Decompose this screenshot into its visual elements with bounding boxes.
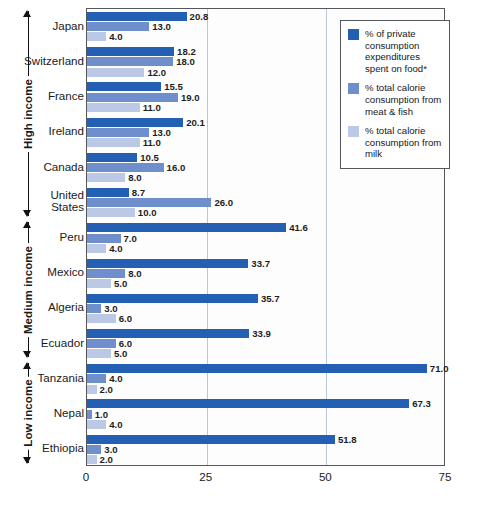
bar-ecuador-series-2 <box>87 349 111 358</box>
bar-peru-series-0 <box>87 223 286 232</box>
bar-value-label: 13.0 <box>149 22 171 31</box>
bar-switzerland-series-1 <box>87 57 173 66</box>
bar-peru-series-1 <box>87 234 121 243</box>
bar-value-label: 5.0 <box>111 279 127 288</box>
category-label-algeria: Algeria <box>0 301 84 314</box>
x-tick-label: 25 <box>199 470 212 483</box>
bar-ireland-series-0 <box>87 118 183 127</box>
category-label-france: France <box>0 90 84 103</box>
gridline <box>207 9 208 465</box>
bar-value-label: 67.3 <box>409 399 431 408</box>
bar-nepal-series-2 <box>87 420 106 429</box>
arrow-down-icon <box>23 457 31 464</box>
bar-value-label: 4.0 <box>106 374 122 383</box>
bar-value-label: 35.7 <box>258 294 280 303</box>
bar-value-label: 3.0 <box>101 445 117 454</box>
bar-value-label: 7.0 <box>121 234 137 243</box>
bar-value-label: 16.0 <box>164 163 186 172</box>
bar-tanzania-series-2 <box>87 385 97 394</box>
category-label-switzerland: Switzerland <box>0 55 84 68</box>
bar-algeria-series-1 <box>87 304 101 313</box>
legend-swatch-icon <box>348 83 359 94</box>
category-label-ethiopia: Ethiopia <box>0 442 84 455</box>
bar-canada-series-2 <box>87 173 125 182</box>
x-tick-label: 0 <box>83 470 89 483</box>
bar-value-label: 33.7 <box>248 259 270 268</box>
bar-united-states-series-1 <box>87 198 211 207</box>
legend-label: % of private consumption expenditures sp… <box>365 28 443 74</box>
bar-value-label: 19.0 <box>178 93 200 102</box>
bar-value-label: 10.5 <box>137 153 159 162</box>
bar-value-label: 8.0 <box>125 269 141 278</box>
bar-france-series-1 <box>87 93 178 102</box>
bar-japan-series-0 <box>87 12 187 21</box>
bar-value-label: 8.7 <box>129 188 145 197</box>
legend-label: % total calorie consumption from meat & … <box>365 82 443 117</box>
bar-value-label: 41.6 <box>286 223 308 232</box>
bar-japan-series-1 <box>87 22 149 31</box>
bar-canada-series-1 <box>87 163 164 172</box>
bar-value-label: 71.0 <box>427 364 449 373</box>
bar-nepal-series-0 <box>87 399 409 408</box>
bar-value-label: 51.8 <box>335 435 357 444</box>
bar-ireland-series-2 <box>87 138 140 147</box>
bar-ethiopia-series-2 <box>87 455 97 464</box>
bar-tanzania-series-1 <box>87 374 106 383</box>
arrow-down-icon <box>23 351 31 358</box>
bar-value-label: 18.2 <box>174 47 196 56</box>
chart-figure: High incomeMedium incomeLow income Japan… <box>0 0 478 505</box>
bar-value-label: 10.0 <box>135 208 157 217</box>
bar-value-label: 26.0 <box>211 198 233 207</box>
bar-value-label: 6.0 <box>116 339 132 348</box>
category-label-ireland: Ireland <box>0 125 84 138</box>
bar-value-label: 8.0 <box>125 173 141 182</box>
bar-value-label: 1.0 <box>92 410 108 419</box>
bracket-label: Medium income <box>20 243 36 337</box>
bar-france-series-2 <box>87 103 140 112</box>
income-bracket-high-income: High income <box>14 11 60 216</box>
bar-france-series-0 <box>87 82 161 91</box>
category-label-peru: Peru <box>0 231 84 244</box>
category-label-mexico: Mexico <box>0 266 84 279</box>
bar-japan-series-2 <box>87 32 106 41</box>
bar-algeria-series-2 <box>87 314 116 323</box>
bar-value-label: 11.0 <box>140 138 161 147</box>
gridline <box>326 9 327 465</box>
category-label-united-states: UnitedStates <box>0 189 84 214</box>
chart-legend: % of private consumption expenditures sp… <box>340 20 450 169</box>
bar-value-label: 13.0 <box>149 128 171 137</box>
arrow-up-icon <box>23 221 31 228</box>
bar-canada-series-0 <box>87 153 137 162</box>
arrow-up-icon <box>23 362 31 369</box>
legend-item-2: % total calorie consumption from milk <box>348 125 443 160</box>
x-tick-label: 50 <box>319 470 332 483</box>
bar-value-label: 3.0 <box>101 304 117 313</box>
category-label-nepal: Nepal <box>0 407 84 420</box>
bar-ethiopia-series-0 <box>87 435 335 444</box>
bar-value-label: 15.5 <box>161 82 183 91</box>
bar-value-label: 2.0 <box>97 455 113 464</box>
bar-value-label: 5.0 <box>111 349 127 358</box>
legend-swatch-icon <box>348 29 359 40</box>
bar-tanzania-series-0 <box>87 364 427 373</box>
bar-value-label: 4.0 <box>106 244 122 253</box>
bar-value-label: 20.1 <box>183 118 205 127</box>
bar-mexico-series-2 <box>87 279 111 288</box>
bar-united-states-series-0 <box>87 188 129 197</box>
bar-value-label: 18.0 <box>173 57 195 66</box>
bar-ecuador-series-0 <box>87 329 249 338</box>
bar-ecuador-series-1 <box>87 339 116 348</box>
bar-value-label: 4.0 <box>106 32 122 41</box>
bar-ireland-series-1 <box>87 128 149 137</box>
legend-label: % total calorie consumption from milk <box>365 125 443 160</box>
bar-mexico-series-1 <box>87 269 125 278</box>
bar-value-label: 11.0 <box>140 103 161 112</box>
bar-switzerland-series-0 <box>87 47 174 56</box>
bar-value-label: 12.0 <box>144 68 166 77</box>
x-tick-label: 75 <box>439 470 452 483</box>
category-label-tanzania: Tanzania <box>0 372 84 385</box>
bar-peru-series-2 <box>87 244 106 253</box>
bar-value-label: 20.8 <box>187 12 209 21</box>
category-label-ecuador: Ecuador <box>0 336 84 349</box>
legend-item-1: % total calorie consumption from meat & … <box>348 82 443 117</box>
